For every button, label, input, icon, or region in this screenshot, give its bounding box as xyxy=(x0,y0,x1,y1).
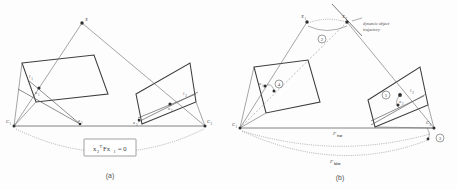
panel-a-c1-plane-edge-top xyxy=(14,63,22,126)
panel-b-step-2-label: 2 xyxy=(321,37,324,42)
panel-a: X C 1 C 2 x 1 x 2 e 1 e 2 l 1 l 2 x 2 T … xyxy=(6,17,212,180)
panel-a-label-epipole-1-sub: 1 xyxy=(81,121,83,125)
panel-b-world-point-2 xyxy=(345,20,348,23)
panel-b: X 1 X 2 C 1 C 2 x 1 x 2 l 2 dynamic obje… xyxy=(232,4,444,182)
panel-b-label-image-point-2: x xyxy=(398,99,401,104)
panel-b-camera-center-2 xyxy=(433,127,436,130)
panel-b-f-true-sub: true xyxy=(337,134,343,138)
panel-b-trajectory-arrow xyxy=(352,18,362,21)
panel-a-label-epipole-1: e xyxy=(78,118,80,123)
panel-a-equation-box xyxy=(84,139,136,156)
panel-b-trajectory-label-line1: dynamic object xyxy=(363,21,390,26)
panel-b-label-world-point-1: X xyxy=(300,14,304,19)
panel-a-equation-tail: = 0 xyxy=(118,145,127,152)
panel-b-epipole-2 xyxy=(427,138,430,141)
panel-b-f-false-sub: false xyxy=(334,162,341,166)
panel-a-epipole-2 xyxy=(138,119,141,122)
panel-a-caption: (a) xyxy=(106,172,115,180)
panel-b-step-3-label: 3 xyxy=(439,136,442,141)
panel-b-label-world-point-2: X xyxy=(341,14,345,19)
panel-b-motion-bracket xyxy=(308,26,347,31)
panel-a-equation-mid: Fx xyxy=(103,145,111,152)
panel-a-label-world-point: X xyxy=(84,17,88,22)
panel-b-label-world-point-1-sub: 1 xyxy=(305,17,307,21)
panel-a-label-image-point-2: x xyxy=(167,106,170,111)
panel-b-image-point-2 xyxy=(398,93,402,97)
panel-b-step-marker-2: 2 xyxy=(318,35,326,43)
panel-a-camera-center-1 xyxy=(13,125,16,128)
panel-b-c2-arc xyxy=(427,128,429,139)
panel-a-label-image-point-1: x xyxy=(34,90,37,95)
panel-b-caption: (b) xyxy=(336,174,345,182)
panel-a-world-point xyxy=(80,21,83,24)
panel-b-image-point-1b xyxy=(273,90,276,93)
panel-a-label-camera-center-2-sub: 2 xyxy=(210,122,212,126)
panel-b-label-image-point-1: x xyxy=(258,81,261,86)
panel-b-c1-plane-edge-top xyxy=(240,67,254,128)
panel-b-step-marker-3: 3 xyxy=(436,134,444,142)
panel-b-object-motion-arc xyxy=(308,19,346,23)
panel-a-equation-sub1: 2 xyxy=(97,149,99,154)
panel-b-world-point-1 xyxy=(305,20,308,23)
panel-b-trajectory-label-line2: trajectory xyxy=(363,27,380,32)
panel-b-camera-center-1 xyxy=(239,127,242,130)
panel-a-label-camera-center-1-sub: 1 xyxy=(9,122,11,126)
panel-b-label-camera-center-1-sub: 1 xyxy=(235,125,237,129)
panel-a-image-point-1 xyxy=(37,86,40,89)
panel-a-label-epipole-2: e xyxy=(133,120,135,125)
panel-b-c1-plane-edge-bottom xyxy=(240,113,266,128)
figure-root: X C 1 C 2 x 1 x 2 e 1 e 2 l 1 l 2 x 2 T … xyxy=(0,0,457,189)
panel-a-camera-center-2 xyxy=(204,125,207,128)
panel-a-equation-sub2: 1 xyxy=(114,149,116,154)
epipolar-geometry-figure: X C 1 C 2 x 1 x 2 e 1 e 2 l 1 l 2 x 2 T … xyxy=(0,0,457,189)
panel-a-c1-plane-edge-bottom xyxy=(14,102,36,126)
panel-b-image-point-1 xyxy=(264,85,267,88)
